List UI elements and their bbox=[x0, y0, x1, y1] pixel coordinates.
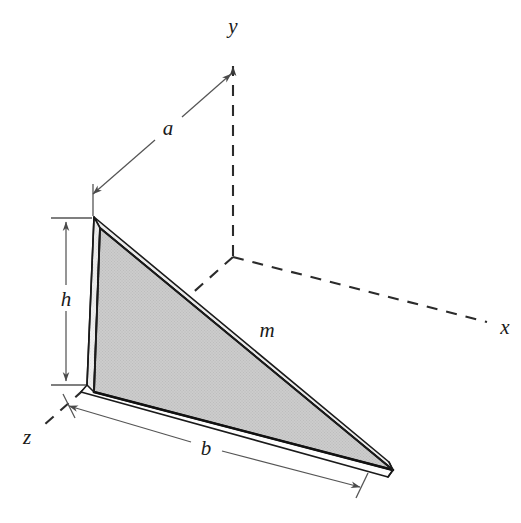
x-axis-line bbox=[233, 257, 487, 322]
dimension-b-extension-right bbox=[356, 473, 368, 498]
figure-canvas: a h b y x z m bbox=[0, 0, 521, 523]
technical-diagram: a h b y x z m bbox=[0, 0, 521, 523]
dimension-label-a: a bbox=[163, 116, 174, 140]
dimension-a: a bbox=[93, 74, 231, 216]
dimension-label-b: b bbox=[201, 436, 212, 460]
axis-label-z: z bbox=[22, 425, 31, 449]
wedge-body bbox=[81, 217, 393, 477]
dimension-a-line-left bbox=[93, 140, 155, 194]
dimension-h: h bbox=[51, 218, 92, 385]
axis-label-y: y bbox=[226, 14, 238, 38]
axis-label-x: x bbox=[499, 315, 510, 339]
mass-label-m: m bbox=[259, 318, 274, 342]
dimension-a-line-right bbox=[182, 74, 231, 117]
dimension-label-h: h bbox=[61, 287, 72, 311]
